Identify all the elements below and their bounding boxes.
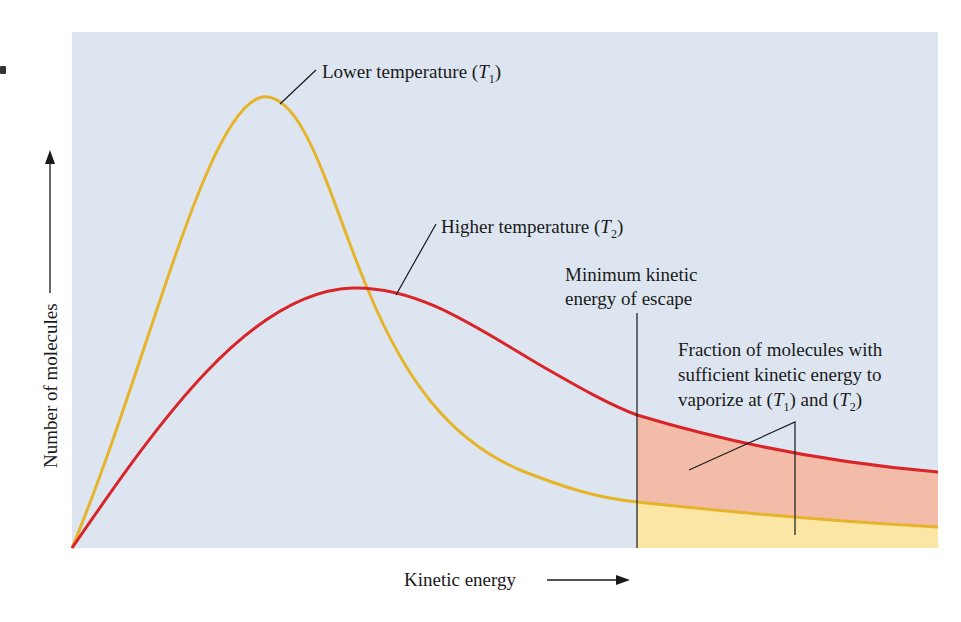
kinetic-energy-distribution-chart: Lower temperature (T1) Higher temperatur…: [0, 0, 961, 622]
x-axis-label: Kinetic energy: [404, 569, 517, 590]
escape-energy-label-line1: Minimum kinetic: [565, 264, 697, 285]
y-axis-arrow-icon: [45, 150, 55, 164]
x-axis-arrow-icon: [616, 575, 630, 585]
fraction-label-line1: Fraction of molecules with: [678, 339, 883, 360]
fraction-label-line2: sufficient kinetic energy to: [678, 364, 882, 385]
escape-energy-label-line2: energy of escape: [565, 288, 692, 309]
y-axis-label: Number of molecules: [40, 303, 61, 468]
